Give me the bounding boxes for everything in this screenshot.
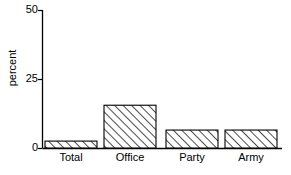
bars-group <box>45 105 277 148</box>
bar-army <box>225 130 277 148</box>
bar-party <box>166 130 218 148</box>
bar-total <box>45 141 97 148</box>
bar-office <box>104 105 156 148</box>
plot-area <box>0 0 291 175</box>
bar-chart: percent 50 25 0 Total Office Party Army <box>0 0 291 175</box>
